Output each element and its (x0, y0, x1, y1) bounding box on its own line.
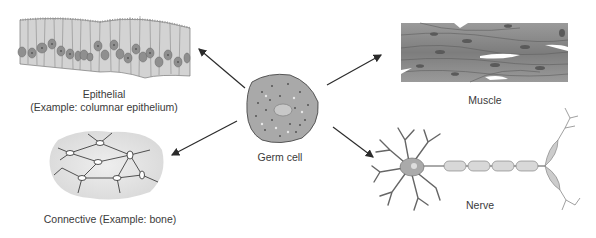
arrow-to-muscle (327, 55, 381, 85)
muscle-label: Muscle (420, 94, 550, 107)
epithelial-label: Epithelial (Example: columnar epithelium… (10, 88, 198, 114)
epithelial-title: Epithelial (10, 88, 198, 101)
muscle-tissue-icon (401, 23, 568, 82)
arrow-to-connective (172, 121, 237, 155)
connective-label: Connective (Example: bone) (20, 213, 200, 226)
columnar-epithelium-icon (18, 16, 190, 78)
neuron-icon (372, 108, 580, 210)
nerve-label: Nerve (430, 199, 530, 212)
bone-connective-tissue-icon (50, 131, 164, 200)
germ-cell-label: Germ cell (230, 151, 330, 164)
epithelial-example: (Example: columnar epithelium) (10, 101, 198, 114)
arrow-to-nerve (333, 127, 373, 157)
germ-cell-icon (247, 74, 318, 142)
arrow-to-epithelial (199, 49, 245, 88)
